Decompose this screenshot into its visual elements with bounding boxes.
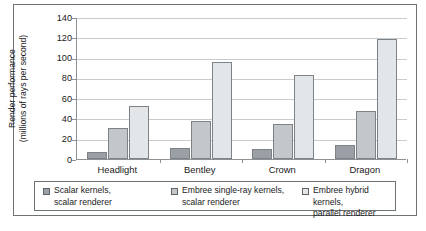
legend-label: Embree single-ray kernels, scalar render…: [171, 185, 284, 208]
category-separator: [242, 159, 243, 163]
y-tick-label: 120: [32, 34, 72, 43]
bar: [252, 149, 272, 159]
category-separator: [325, 159, 326, 163]
y-tick-mark: [72, 59, 76, 60]
y-tick-mark: [72, 18, 76, 19]
plot-area: [76, 18, 406, 160]
y-tick-label: 40: [32, 115, 72, 124]
y-tick-mark: [72, 119, 76, 120]
bar: [356, 111, 376, 159]
x-category-label: Headlight: [76, 164, 159, 175]
bar: [170, 148, 190, 159]
legend-label: Scalar kernels, scalar renderer: [43, 185, 112, 208]
y-axis-title: Render performance (millions of rays per…: [7, 9, 28, 169]
gridline: [77, 38, 407, 39]
y-tick-label: 20: [32, 135, 72, 144]
y-tick-mark: [72, 38, 76, 39]
y-tick-label: 140: [32, 14, 72, 23]
x-category-label: Bentley: [159, 164, 242, 175]
y-tick-label: 0: [32, 156, 72, 165]
legend-entry[interactable]: Embree single-ray kernels, scalar render…: [171, 185, 284, 208]
gridline: [77, 18, 407, 19]
legend-label: Embree hybrid kernels, parallel renderer: [302, 185, 395, 220]
bar: [87, 152, 107, 159]
bar: [191, 121, 211, 159]
bar: [212, 62, 232, 159]
bar: [129, 106, 149, 159]
y-tick-mark: [72, 160, 76, 161]
y-tick-mark: [72, 79, 76, 80]
bar: [273, 124, 293, 160]
legend-swatch-icon: [302, 188, 309, 195]
category-separator: [407, 159, 408, 163]
legend-entry[interactable]: Embree hybrid kernels, parallel renderer: [302, 185, 395, 220]
legend-swatch-icon: [43, 188, 50, 195]
y-tick-label: 80: [32, 74, 72, 83]
bar: [108, 128, 128, 159]
gridline: [77, 99, 407, 100]
x-category-label: Crown: [241, 164, 324, 175]
y-tick-mark: [72, 99, 76, 100]
y-tick-label: 100: [32, 54, 72, 63]
bar: [377, 39, 397, 159]
chart-figure: Render performance (millions of rays per…: [0, 0, 426, 231]
bar: [335, 145, 355, 159]
bar: [294, 75, 314, 159]
gridline: [77, 59, 407, 60]
chart-legend: Scalar kernels, scalar rendererEmbree si…: [34, 181, 396, 211]
gridline: [77, 79, 407, 80]
x-category-label: Dragon: [324, 164, 407, 175]
legend-swatch-icon: [171, 188, 178, 195]
legend-entry[interactable]: Scalar kernels, scalar renderer: [43, 185, 112, 208]
y-tick-label: 60: [32, 95, 72, 104]
y-tick-mark: [72, 140, 76, 141]
category-separator: [160, 159, 161, 163]
